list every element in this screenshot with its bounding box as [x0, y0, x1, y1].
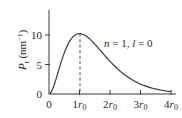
state-annotation: n = 1, l = 0	[104, 37, 153, 49]
x-tick-label: 4r0	[164, 98, 178, 112]
x-tick-label: 0	[46, 98, 52, 110]
x-tick-label: 2r0	[103, 98, 117, 112]
y-tick-label: 0	[37, 88, 43, 100]
y-axis-label: Pr(nm−1)	[16, 29, 31, 71]
x-ticks: 01r02r03r04r0	[46, 90, 178, 112]
chart: 0510 01r02r03r04r0 Pr(nm−1) n = 1, l = 0	[0, 0, 182, 118]
y-ticks: 0510	[31, 29, 50, 100]
x-tick-label: 1r0	[73, 98, 87, 112]
y-tick-label: 10	[31, 29, 43, 41]
y-tick-label: 5	[37, 59, 43, 71]
x-tick-label: 3r0	[134, 98, 148, 112]
